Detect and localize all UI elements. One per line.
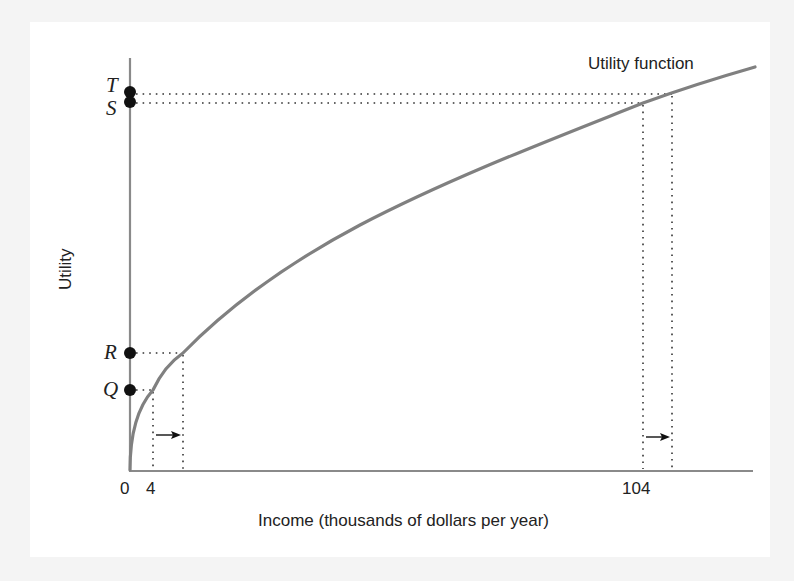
- dotted-guides: [136, 94, 672, 469]
- utility-curve: [130, 67, 755, 470]
- arrow-high-income: [646, 433, 670, 441]
- x-axis-label: Income (thousands of dollars per year): [258, 511, 549, 531]
- point-S: [124, 96, 136, 108]
- x-tick-4: 4: [146, 479, 155, 499]
- arrow-low-income: [156, 431, 181, 439]
- curve-label: Utility function: [588, 54, 694, 74]
- point-Q: [124, 384, 136, 396]
- label-S: S: [106, 96, 117, 121]
- point-R: [124, 347, 136, 359]
- x-tick-104: 104: [622, 479, 650, 499]
- x-tick-0: 0: [120, 479, 129, 499]
- label-R: R: [104, 340, 117, 365]
- y-axis-label: Utility: [56, 248, 76, 290]
- label-T: T: [106, 73, 118, 98]
- label-Q: Q: [103, 377, 118, 402]
